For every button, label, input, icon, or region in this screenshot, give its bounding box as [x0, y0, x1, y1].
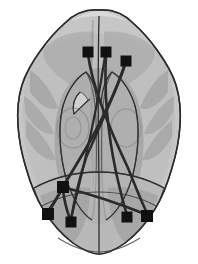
node-n8[interactable]: [141, 210, 153, 222]
node-n5[interactable]: [42, 208, 54, 220]
node-n2[interactable]: [101, 47, 112, 58]
node-n6[interactable]: [66, 217, 77, 228]
brain-connectivity-figure: Brain connectivity axial glass-brain vie…: [0, 0, 198, 264]
brain-canvas: [0, 0, 198, 264]
node-n1[interactable]: [83, 47, 94, 58]
node-n4[interactable]: [57, 181, 69, 193]
node-n3[interactable]: [121, 56, 132, 67]
node-n7[interactable]: [122, 212, 133, 223]
interhemispheric-midline: [98, 16, 99, 253]
